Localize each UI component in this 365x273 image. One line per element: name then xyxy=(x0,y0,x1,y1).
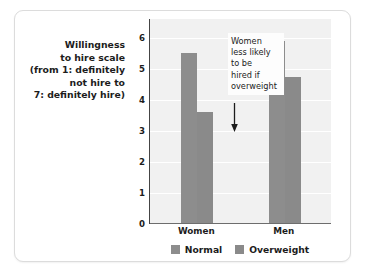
legend-swatch-overweight xyxy=(235,245,244,254)
annotation-line: hired if xyxy=(231,70,282,81)
bar-women-normal xyxy=(181,53,197,224)
y-axis-tick-label: 2 xyxy=(139,157,145,167)
legend-item-normal: Normal xyxy=(171,244,222,255)
y-axis-caption-line: (from 1: definitely xyxy=(21,64,125,77)
legend-swatch-normal xyxy=(171,245,180,254)
gridline xyxy=(150,193,331,194)
plot-area: Women less likely to be hired if overwei… xyxy=(149,19,331,224)
gridline xyxy=(150,131,331,132)
x-axis-tick-label-men: Men xyxy=(273,226,294,236)
legend-label: Normal xyxy=(185,244,222,255)
legend-label: Overweight xyxy=(249,244,309,255)
y-axis-tick-label: 0 xyxy=(139,219,145,229)
y-axis-caption-line: 7: definitely hire) xyxy=(21,89,125,102)
gridline xyxy=(150,100,331,101)
y-axis-caption-line: not hire to xyxy=(21,77,125,90)
x-axis-tick-label-women: Women xyxy=(178,226,215,236)
y-axis-caption-line: Willingness xyxy=(21,39,125,52)
y-axis-tick-label: 6 xyxy=(139,33,145,43)
annotation-line: to be xyxy=(231,58,282,69)
legend-item-overweight: Overweight xyxy=(235,244,309,255)
bar-women-overweight xyxy=(197,112,213,224)
x-axis-tick-labels: WomenMen xyxy=(149,226,331,242)
y-axis-tick-label: 1 xyxy=(139,188,145,198)
gridline xyxy=(150,162,331,163)
annotation-line: Women xyxy=(231,36,282,47)
y-axis-tick-label: 5 xyxy=(139,64,145,74)
x-axis-line xyxy=(150,223,331,224)
figure-card: Willingness to hire scale (from 1: defin… xyxy=(14,10,351,262)
annotation-arrow-icon xyxy=(230,103,239,132)
annotation-line: less likely xyxy=(231,47,282,58)
chart-legend: NormalOverweight xyxy=(149,244,331,255)
bar-men-overweight xyxy=(285,77,301,225)
bar-chart: 0123456 Women less likely to be hired if… xyxy=(132,19,332,257)
annotation-line: overweight xyxy=(231,81,282,92)
y-axis-tick-label: 4 xyxy=(139,95,145,105)
y-axis-caption-line: to hire scale xyxy=(21,52,125,65)
annotation-callout: Women less likely to be hired if overwei… xyxy=(228,33,284,95)
y-axis-caption: Willingness to hire scale (from 1: defin… xyxy=(21,39,125,102)
y-axis-tick-label: 3 xyxy=(139,126,145,136)
y-axis-tick-labels: 0123456 xyxy=(132,19,145,224)
